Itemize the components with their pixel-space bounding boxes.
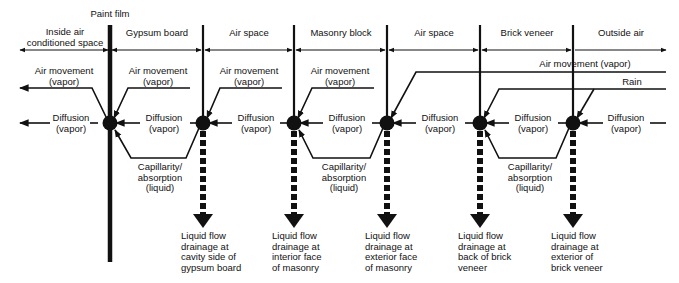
drainage-arrow-4 — [470, 131, 490, 228]
label-line: (vapor) — [120, 77, 196, 88]
node-masonry-interior — [287, 116, 302, 131]
paint-film-label: Paint film — [90, 9, 130, 20]
label-line: (liquid) — [498, 183, 562, 194]
label-line: (liquid) — [312, 183, 376, 194]
label-line: exterior face — [365, 252, 417, 263]
diffusion-label-3: Diffusion (vapor) — [229, 113, 283, 134]
node-gypsum-cavity — [196, 116, 211, 131]
layer-boundaries — [110, 25, 573, 262]
label-line: Diffusion — [137, 113, 191, 124]
label-line: veneer — [458, 263, 511, 274]
drainage-arrow-1 — [193, 131, 213, 228]
drainage-label-2: Liquid flow drainage at interior face of… — [272, 231, 322, 273]
label-line: (vapor) — [26, 77, 102, 88]
node-brick-back — [473, 116, 488, 131]
label-line: Liquid flow — [181, 231, 241, 242]
zone-label-airspace-2: Air space — [390, 28, 478, 39]
zone-label-airspace-1: Air space — [206, 28, 292, 39]
zone-label-brick: Brick veneer — [483, 28, 571, 39]
label-line: (vapor) — [413, 124, 467, 135]
label-line: Diffusion — [506, 113, 560, 124]
drainage-label-1: Liquid flow drainage at cavity side of g… — [181, 231, 241, 273]
drainage-arrow-5 — [563, 131, 583, 228]
drainage-arrow-3 — [377, 131, 397, 228]
label-line: Liquid flow — [272, 231, 322, 242]
drainage-label-5: Liquid flow drainage at exterior of bric… — [551, 231, 603, 273]
air-movement-label-4: Air movement (vapor) — [302, 66, 378, 87]
zone-label-outside: Outside air — [576, 28, 666, 39]
label-line: Air movement — [26, 66, 102, 77]
rain-label: Rain — [612, 77, 652, 88]
label-line: cavity side of — [181, 252, 241, 263]
label-line: Diffusion — [229, 113, 283, 124]
capillarity-label-1: Capillarity/ absorption (liquid) — [128, 162, 192, 194]
label-line: Air movement — [302, 66, 378, 77]
label-line: (vapor) — [211, 77, 287, 88]
zone-label-gypsum: Gypsum board — [114, 28, 200, 39]
label-line: Air movement — [211, 66, 287, 77]
air-movement-label-outside: Air movement (vapor) — [520, 59, 650, 70]
drainage-arrow-2 — [284, 131, 304, 228]
label-line: Diffusion — [44, 113, 98, 124]
label-line: back of brick — [458, 252, 511, 263]
label-line: (liquid) — [128, 183, 192, 194]
node-paint-film — [103, 116, 118, 131]
diffusion-label-1: Diffusion (vapor) — [44, 113, 98, 134]
label-line: Liquid flow — [365, 231, 417, 242]
label-line: (vapor) — [506, 124, 560, 135]
label-line: gypsum board — [181, 263, 241, 274]
drainage-label-4: Liquid flow drainage at back of brick ve… — [458, 231, 511, 273]
label-line: (vapor) — [320, 124, 374, 135]
label-line: Capillarity/ — [498, 162, 562, 173]
label-line: interior face — [272, 252, 322, 263]
label-line: Air movement — [120, 66, 196, 77]
moisture-transport-diagram: Paint film Inside air conditioned space … — [0, 0, 679, 283]
zone-label-masonry: Masonry block — [297, 28, 385, 39]
label-line: (vapor) — [137, 124, 191, 135]
air-movement-label-1: Air movement (vapor) — [26, 66, 102, 87]
zone-label-line: conditioned space — [22, 38, 108, 49]
label-line: of masonry — [365, 263, 417, 274]
label-line: Diffusion — [599, 113, 653, 124]
capillarity-label-2: Capillarity/ absorption (liquid) — [312, 162, 376, 194]
label-line: (vapor) — [44, 124, 98, 135]
label-line: (vapor) — [302, 77, 378, 88]
drainage-label-3: Liquid flow drainage at exterior face of… — [365, 231, 417, 273]
label-line: brick veneer — [551, 263, 603, 274]
label-line: (vapor) — [599, 124, 653, 135]
label-line: Liquid flow — [551, 231, 603, 242]
label-line: Liquid flow — [458, 231, 511, 242]
node-masonry-exterior — [380, 116, 395, 131]
diffusion-label-4: Diffusion (vapor) — [320, 113, 374, 134]
diffusion-label-6: Diffusion (vapor) — [506, 113, 560, 134]
label-line: Diffusion — [413, 113, 467, 124]
label-line: Capillarity/ — [128, 162, 192, 173]
zone-label-inside-air: Inside air conditioned space — [22, 27, 108, 48]
label-line: Capillarity/ — [312, 162, 376, 173]
air-movement-label-3: Air movement (vapor) — [211, 66, 287, 87]
diffusion-label-2: Diffusion (vapor) — [137, 113, 191, 134]
air-movement-label-2: Air movement (vapor) — [120, 66, 196, 87]
label-line: of masonry — [272, 263, 322, 274]
label-line: Diffusion — [320, 113, 374, 124]
label-line: (vapor) — [229, 124, 283, 135]
diffusion-label-5: Diffusion (vapor) — [413, 113, 467, 134]
zone-label-line: Inside air — [22, 27, 108, 38]
label-line: exterior of — [551, 252, 603, 263]
diffusion-label-7: Diffusion (vapor) — [599, 113, 653, 134]
node-brick-exterior — [566, 116, 581, 131]
capillarity-label-3: Capillarity/ absorption (liquid) — [498, 162, 562, 194]
